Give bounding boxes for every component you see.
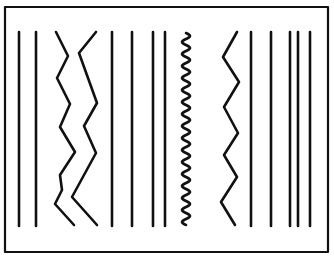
line-diagram [0, 0, 334, 259]
zigzag-left-2 [72, 32, 97, 225]
wavy-center [182, 33, 190, 225]
line-group [19, 32, 310, 226]
zigzag-right [221, 32, 239, 225]
diagram-frame [5, 7, 328, 252]
